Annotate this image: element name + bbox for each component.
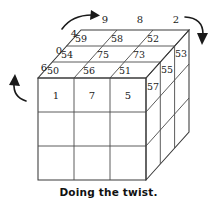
figure-container: 59 58 52 54 75 73 50 56 51 1 7 5 (0, 0, 217, 211)
front-cell-r1c3: 5 (125, 90, 131, 101)
top-cell-r1c3: 52 (147, 33, 159, 44)
edge-label-8: 8 (137, 14, 143, 25)
front-cell-r1c1: 1 (53, 90, 59, 101)
top-cell-r2c3: 73 (133, 49, 145, 60)
edge-labels-top: 9 8 2 (102, 14, 179, 25)
top-face-numbers: 59 58 52 54 75 73 50 56 51 (47, 33, 159, 76)
top-cell-r2c1: 54 (61, 49, 73, 60)
edge-label-6: 6 (41, 62, 47, 73)
top-cell-r3c2: 56 (83, 65, 95, 76)
figure-caption: Doing the twist. (0, 186, 217, 198)
right-cell-55: 55 (161, 64, 173, 75)
top-cell-r2c2: 75 (97, 49, 109, 60)
top-left-arrow (62, 10, 100, 29)
top-cell-r3c3: 51 (119, 65, 131, 76)
front-cell-r1c2: 7 (89, 90, 95, 101)
edge-label-9: 9 (102, 14, 108, 25)
front-face-numbers: 1 7 5 (53, 90, 131, 101)
edge-label-0: 0 (56, 45, 62, 56)
top-cell-r1c2: 58 (111, 33, 123, 44)
cube-diagram: 59 58 52 54 75 73 50 56 51 1 7 5 (0, 0, 217, 211)
top-cell-r3c1: 50 (47, 65, 59, 76)
edge-label-4: 4 (71, 28, 77, 39)
right-cell-57: 57 (147, 81, 159, 92)
edge-label-2: 2 (173, 14, 179, 25)
right-cell-53: 53 (175, 48, 187, 59)
left-arrow (9, 74, 26, 101)
